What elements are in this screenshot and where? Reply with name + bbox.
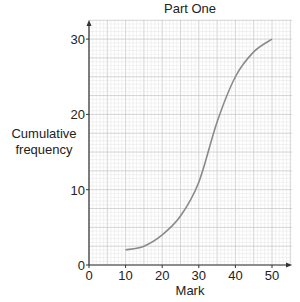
svg-text:40: 40 [228, 268, 242, 283]
svg-text:50: 50 [265, 268, 279, 283]
grid [89, 20, 292, 265]
svg-text:20: 20 [155, 268, 169, 283]
svg-text:10: 10 [71, 183, 85, 198]
tick-labels: 010203040500102030 [71, 32, 280, 283]
svg-text:0: 0 [78, 258, 85, 273]
svg-text:30: 30 [71, 32, 85, 47]
chart-plot-area: 010203040500102030 [0, 0, 300, 302]
svg-text:20: 20 [71, 107, 85, 122]
svg-text:0: 0 [85, 268, 92, 283]
svg-text:30: 30 [192, 268, 206, 283]
svg-text:10: 10 [118, 268, 132, 283]
